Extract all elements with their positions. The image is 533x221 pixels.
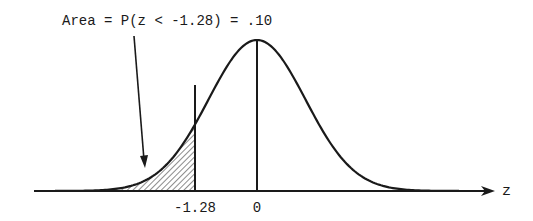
z-axis-label: z	[502, 183, 511, 200]
area-annotation: Area = P(z < -1.28) = .10	[62, 13, 272, 29]
tick-label-neg-1-28: -1.28	[174, 200, 216, 216]
normal-curve-svg: z -1.28 0 Area = P(z < -1.28) = .10	[0, 0, 533, 221]
normal-curve-figure: z -1.28 0 Area = P(z < -1.28) = .10	[0, 0, 533, 221]
tick-label-0: 0	[253, 200, 261, 216]
annotation-pointer-arrowhead-icon	[140, 155, 148, 168]
annotation-pointer-line	[134, 36, 144, 160]
